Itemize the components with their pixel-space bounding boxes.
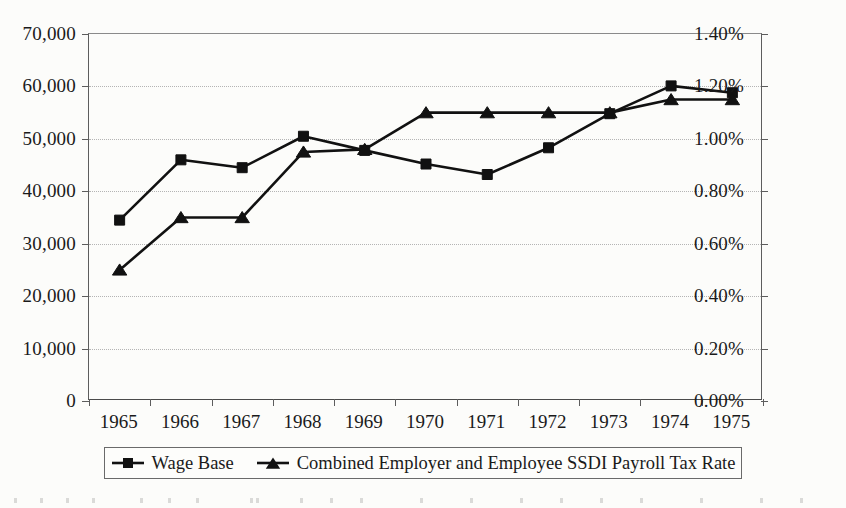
data-point-square	[115, 215, 125, 225]
left-axis-tick-label: 0	[0, 391, 88, 410]
data-point-square	[482, 170, 492, 180]
x-axis-tick-label: 1966	[161, 412, 199, 431]
right-axis-tick-label: 0.20%	[682, 339, 744, 358]
artifact-mark	[800, 498, 803, 503]
left-axis-tick-label: 30,000	[0, 234, 88, 253]
artifact-mark	[250, 498, 253, 503]
artifact-mark	[168, 498, 171, 503]
legend-label: Wage Base	[152, 454, 234, 473]
artifact-mark	[196, 498, 199, 503]
artifact-mark	[140, 498, 143, 503]
x-axis-tick-label: 1969	[345, 412, 383, 431]
artifact-mark	[470, 498, 473, 503]
x-axis-tick-label: 1967	[222, 412, 260, 431]
x-axis-tick-label: 1971	[467, 412, 505, 431]
x-axis-tick-label: 1973	[590, 412, 628, 431]
artifact-mark	[700, 498, 703, 503]
left-axis-tick-label: 20,000	[0, 286, 88, 305]
artifact-mark	[420, 498, 423, 503]
data-point-square	[176, 155, 186, 165]
right-axis-tick-label: 0.80%	[682, 181, 744, 200]
artifact-mark	[256, 498, 259, 503]
left-axis-tick-label: 50,000	[0, 129, 88, 148]
left-axis-tick-label: 40,000	[0, 181, 88, 200]
x-axis-tick-label: 1970	[406, 412, 444, 431]
artifact-mark	[600, 498, 603, 503]
plot-area	[88, 33, 762, 400]
artifact-mark	[14, 498, 17, 503]
series-line	[120, 100, 733, 270]
scan-artifact	[0, 494, 846, 508]
x-axis-tick-label: 1965	[100, 412, 138, 431]
artifact-mark	[520, 498, 523, 503]
series-2	[112, 94, 739, 276]
artifact-mark	[92, 498, 95, 503]
legend-entry-2: Combined Employer and Employee SSDI Payr…	[256, 454, 736, 473]
series-layer	[89, 34, 763, 401]
x-axis-tick	[763, 399, 764, 406]
legend-entry-1: Wage Base	[111, 454, 234, 473]
artifact-mark	[560, 498, 563, 503]
chart-figure: 010,00020,00030,00040,00050,00060,00070,…	[0, 0, 846, 508]
right-axis-tick-label: 1.00%	[682, 129, 744, 148]
x-axis-tick-label: 1968	[283, 412, 321, 431]
artifact-mark	[330, 498, 333, 503]
right-axis-tick-label: 0.60%	[682, 234, 744, 253]
artifact-mark	[300, 498, 303, 503]
artifact-mark	[66, 498, 69, 503]
legend-square-icon	[111, 456, 145, 470]
x-axis-tick-label: 1972	[529, 412, 567, 431]
right-axis-tick-label: 0.00%	[682, 391, 744, 410]
legend-triangle-icon	[256, 456, 290, 470]
artifact-mark	[640, 498, 643, 503]
left-axis-tick-label: 70,000	[0, 24, 88, 43]
artifact-mark	[360, 498, 363, 503]
x-axis-tick-label: 1974	[651, 412, 689, 431]
data-point-square	[421, 159, 431, 169]
artifact-mark	[40, 498, 43, 503]
right-axis-tick-label: 1.20%	[682, 76, 744, 95]
artifact-mark	[760, 498, 763, 503]
series-1	[115, 81, 738, 225]
left-axis-tick-label: 10,000	[0, 339, 88, 358]
x-axis-tick-label: 1975	[712, 412, 750, 431]
data-point-square	[298, 131, 308, 141]
data-point-square	[544, 143, 554, 153]
left-axis-tick-label: 60,000	[0, 76, 88, 95]
right-axis-tick-label: 1.40%	[682, 24, 744, 43]
data-point-square	[666, 81, 676, 91]
data-point-square	[237, 163, 247, 173]
right-axis-tick-label: 0.40%	[682, 286, 744, 305]
chart-legend: Wage BaseCombined Employer and Employee …	[104, 447, 742, 479]
legend-label: Combined Employer and Employee SSDI Payr…	[297, 454, 736, 473]
